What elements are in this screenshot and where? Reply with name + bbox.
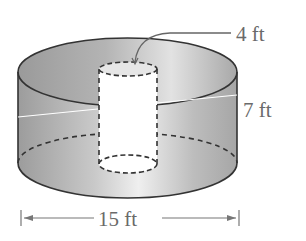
height-label: 7 ft: [243, 98, 272, 122]
arrow-left-icon: [24, 215, 33, 221]
outer-diameter-label: 15 ft: [98, 207, 137, 231]
inner-hole-body: [99, 69, 157, 164]
hole-diameter-label: 4 ft: [236, 22, 265, 46]
arrow-right-icon: [227, 215, 236, 221]
cylinder-diagram: 4 ft 7 ft 15 ft: [0, 0, 306, 241]
